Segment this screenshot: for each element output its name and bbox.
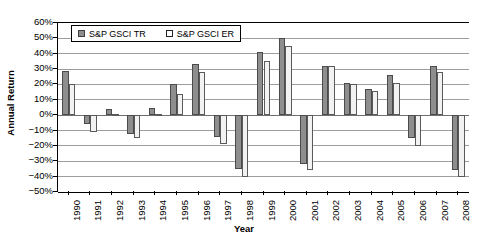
bar-1996-er <box>199 72 205 115</box>
x-axis-tick-label: 1992 <box>115 200 125 221</box>
x-axis-tick-label: 1999 <box>267 200 277 221</box>
x-axis-tick-label: 1995 <box>180 200 190 221</box>
y-axis-tick-label: 40% <box>9 48 53 58</box>
bar-1992-er <box>112 114 118 116</box>
y-axis-tick-label: 30% <box>9 63 53 73</box>
y-axis-tick-label: −10% <box>9 125 53 135</box>
x-axis-tick-mark <box>349 191 350 195</box>
bar-1994-er <box>155 114 161 116</box>
plot-area <box>57 22 469 192</box>
x-axis-tick-label: 2001 <box>310 200 320 221</box>
x-axis-tick-mark <box>176 191 177 195</box>
y-axis-tick-label: 50% <box>9 32 53 42</box>
x-axis-tick-mark <box>89 191 90 195</box>
x-axis-tick-mark <box>306 191 307 195</box>
y-axis-tick-label: 20% <box>9 78 53 88</box>
x-axis-tick-mark <box>414 191 415 195</box>
chart-legend: S&P GSCI TR S&P GSCI ER <box>71 25 241 42</box>
bar-1990-er <box>69 84 75 115</box>
x-axis-title: Year <box>0 223 488 234</box>
x-axis-tick-mark <box>457 191 458 195</box>
bar-2007-er <box>437 72 443 115</box>
x-axis-tick-mark <box>371 191 372 195</box>
bar-2008-er <box>458 115 464 176</box>
legend-label-er: S&P GSCI ER <box>177 29 234 39</box>
x-axis-tick-mark <box>284 191 285 195</box>
x-axis-tick-label: 2006 <box>418 200 428 221</box>
x-axis-tick-mark <box>154 191 155 195</box>
bar-2005-er <box>393 83 399 115</box>
x-axis-tick-mark <box>436 191 437 195</box>
legend-item-er: S&P GSCI ER <box>166 29 234 39</box>
x-axis-tick-mark <box>68 191 69 195</box>
bar-1999-er <box>264 61 270 115</box>
x-axis-tick-mark <box>111 191 112 195</box>
x-axis-tick-label: 2000 <box>288 200 298 221</box>
bar-1997-er <box>220 115 226 144</box>
x-axis-tick-mark <box>133 191 134 195</box>
bar-1998-er <box>242 115 248 176</box>
y-axis-tick-label: −40% <box>9 171 53 181</box>
bar-2004-er <box>372 91 378 116</box>
gridline <box>58 145 469 146</box>
legend-swatch-er-icon <box>166 30 173 37</box>
gridline <box>58 53 469 54</box>
bar-2006-er <box>415 115 421 146</box>
bar-2002-er <box>328 66 334 115</box>
bar-1990-tr <box>62 71 68 116</box>
x-axis-tick-label: 2002 <box>331 200 341 221</box>
bar-2003-er <box>350 84 356 115</box>
legend-label-tr: S&P GSCI TR <box>89 29 146 39</box>
x-axis-tick-label: 1998 <box>245 200 255 221</box>
chart-figure: Annual Return 60%50%40%30%20%10%0%−10%−2… <box>0 0 488 239</box>
bar-2004-tr <box>365 89 371 115</box>
x-axis-tick-label: 2008 <box>461 200 471 221</box>
bar-2001-er <box>307 115 313 170</box>
gridline <box>58 130 469 131</box>
x-axis-tick-label: 1990 <box>72 200 82 221</box>
gridline <box>58 176 469 177</box>
x-axis-tick-label: 1996 <box>202 200 212 221</box>
x-axis-tick-label: 1994 <box>158 200 168 221</box>
x-axis-tick-mark <box>327 191 328 195</box>
x-axis-tick-mark <box>392 191 393 195</box>
x-axis-tick-mark <box>198 191 199 195</box>
bar-2000-er <box>285 46 291 115</box>
y-axis-tick-label: 60% <box>9 17 53 27</box>
gridline <box>58 161 469 162</box>
x-axis-tick-label: 1991 <box>93 200 103 221</box>
y-axis-tick-label: 10% <box>9 94 53 104</box>
y-axis-tick-label: −20% <box>9 140 53 150</box>
bar-1992-tr <box>106 109 112 115</box>
x-axis-tick-label: 1993 <box>137 200 147 221</box>
x-axis-tick-mark <box>219 191 220 195</box>
bar-1993-er <box>134 115 140 138</box>
bar-2002-tr <box>322 66 328 115</box>
y-axis-tick-label: −50% <box>9 186 53 196</box>
y-axis-tick-label: −30% <box>9 155 53 165</box>
bar-1995-tr <box>170 84 176 115</box>
legend-item-tr: S&P GSCI TR <box>78 29 146 39</box>
x-axis-tick-label: 2007 <box>440 200 450 221</box>
y-axis-tick-label: 0% <box>9 109 53 119</box>
bar-1995-er <box>177 94 183 116</box>
bar-1991-er <box>90 115 96 132</box>
legend-swatch-tr-icon <box>78 30 85 37</box>
bar-1999-tr <box>257 52 263 115</box>
gridline <box>58 192 469 193</box>
x-axis-tick-label: 2003 <box>353 200 363 221</box>
x-axis-tick-label: 2005 <box>396 200 406 221</box>
x-axis-tick-mark <box>241 191 242 195</box>
bar-1997-tr <box>214 115 220 137</box>
x-axis-tick-mark <box>263 191 264 195</box>
x-axis-tick-label: 1997 <box>223 200 233 221</box>
x-axis-tick-label: 2004 <box>375 200 385 221</box>
